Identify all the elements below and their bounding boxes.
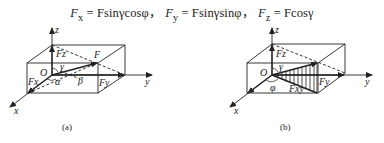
svg-text:Fz: Fz [55,48,66,59]
svg-text:Fz: Fz [275,48,286,59]
svg-text:x: x [13,105,19,116]
svg-text:z: z [274,24,279,35]
svg-text:(a): (a) [62,122,72,132]
figure-a-labels: z y x O F Fz Fy Fx α β γ (a) [13,24,150,132]
svg-text:F: F [93,49,101,60]
svg-text:β: β [77,75,83,86]
svg-text:(b): (b) [280,122,291,132]
svg-text:φ: φ [270,82,276,93]
svg-text:Fxy: Fxy [288,83,305,94]
figure-b [230,28,372,107]
svg-text:Fx: Fx [27,76,39,87]
svg-text:z: z [54,24,59,35]
svg-text:Fy: Fy [98,77,110,88]
svg-text:Fy: Fy [318,76,330,87]
svg-text:y: y [364,76,370,87]
figure-a [10,28,152,107]
figure-b-labels: z y x O Fz Fy Fxy φ γ (b) [233,24,370,132]
svg-text:α: α [55,76,61,87]
svg-text:O: O [40,67,47,78]
force-decomposition-diagrams: z y x O F Fz Fy Fx α β γ (a) [0,0,384,143]
svg-text:x: x [233,105,239,116]
svg-text:O: O [260,67,267,78]
svg-text:y: y [144,76,150,87]
